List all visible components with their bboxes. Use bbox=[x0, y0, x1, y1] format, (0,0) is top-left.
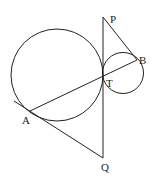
label-b: B bbox=[139, 54, 146, 66]
segment-qa-extended bbox=[14, 101, 103, 158]
large-circle bbox=[11, 29, 103, 121]
label-p: P bbox=[110, 13, 116, 25]
segment-pb bbox=[103, 17, 137, 60]
label-a: A bbox=[22, 114, 30, 126]
label-q: Q bbox=[101, 161, 109, 173]
segment-ab bbox=[30, 60, 137, 111]
label-t: T bbox=[106, 77, 113, 89]
geometry-diagram: P B T A Q bbox=[0, 0, 155, 186]
